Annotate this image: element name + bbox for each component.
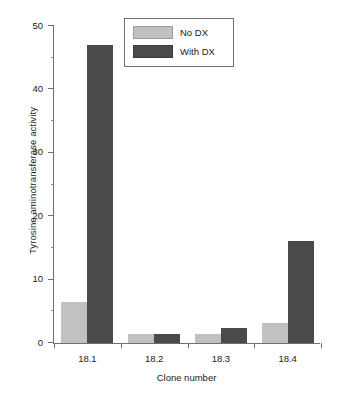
bar-18-4-no-dx: [262, 323, 288, 343]
y-minor-tick: [51, 310, 55, 311]
legend-item-no-dx: No DX: [133, 26, 225, 39]
legend-swatch-no-dx: [133, 26, 173, 39]
y-tick-label: 30: [32, 146, 43, 157]
legend-label-no-dx: No DX: [180, 27, 208, 38]
x-tick: [321, 343, 322, 348]
y-tick-50: 50: [48, 25, 54, 26]
bar-18-3-with-dx: [221, 328, 247, 343]
legend-swatch-with-dx: [133, 45, 173, 58]
y-minor-tick: [51, 120, 55, 121]
x-axis-line: [53, 343, 320, 344]
bar-18-4-with-dx: [288, 241, 314, 343]
bar-18-1-no-dx: [61, 302, 87, 343]
bar-18-2-with-dx: [154, 334, 180, 343]
y-tick-label: 0: [38, 337, 43, 348]
x-tick-label-18-1: 18.1: [78, 353, 97, 364]
bar-18-2-no-dx: [128, 334, 154, 343]
chart-legend: No DX With DX: [124, 18, 234, 67]
bar-18-3-no-dx: [195, 334, 221, 344]
plot-area: 0102030405018.118.218.318.4: [53, 26, 320, 343]
bar-chart-figure: Tyrosine aminotransferase activity 01020…: [0, 0, 337, 403]
y-tick-label: 20: [32, 210, 43, 221]
y-tick-label: 10: [32, 273, 43, 284]
x-axis-title: Clone number: [53, 372, 320, 383]
y-tick-20: 20: [48, 215, 54, 216]
y-tick-label: 50: [32, 20, 43, 31]
y-tick-40: 40: [48, 88, 54, 89]
bar-18-1-with-dx: [87, 45, 113, 343]
y-tick-30: 30: [48, 152, 54, 153]
y-tick-label: 40: [32, 83, 43, 94]
y-minor-tick: [51, 184, 55, 185]
x-tick-label-18-2: 18.2: [145, 353, 164, 364]
y-minor-tick: [51, 247, 55, 248]
y-tick-10: 10: [48, 279, 54, 280]
y-minor-tick: [51, 57, 55, 58]
x-tick-label-18-4: 18.4: [278, 353, 297, 364]
legend-item-with-dx: With DX: [133, 45, 225, 58]
legend-label-with-dx: With DX: [180, 46, 215, 57]
x-tick-label-18-3: 18.3: [212, 353, 231, 364]
